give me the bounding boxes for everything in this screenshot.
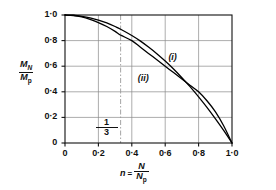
curve-label-ii: (ii) [138,73,149,83]
annotation-one-third: 1 3 [96,118,118,137]
x-axis-label-variable: n [120,168,126,178]
y-axis-tick-label: 0 [31,137,57,147]
chart-figure: MN Mp n = N Np 1 3 (i) (ii) 00·20·40·60·… [0,0,276,190]
y-axis-tick-label: 0·8 [31,35,57,45]
x-axis-tick-label: 0·6 [152,148,178,158]
y-axis-label-denominator: Mp [19,73,32,85]
y-axis-tick-label: 0·2 [31,111,57,121]
x-axis-label-denominator: Np [134,172,148,184]
curve-label-i: (i) [168,52,177,62]
x-axis-label-fraction: N Np [134,162,148,184]
x-axis-label: n = N Np [120,162,230,184]
x-axis-tick-label: 1·0 [219,148,245,158]
y-axis-tick-label: 0·4 [31,86,57,96]
y-axis-tick-label: 1·0 [31,9,57,19]
x-axis-tick-label: 0·4 [119,148,145,158]
y-axis-tick-label: 0·6 [31,60,57,70]
x-axis-tick-label: 0 [52,148,78,158]
x-axis-tick-label: 0·8 [186,148,212,158]
x-axis-tick-label: 0·2 [85,148,111,158]
annotation-one-third-denominator: 3 [96,128,118,137]
x-axis-label-equals: = [128,169,133,178]
